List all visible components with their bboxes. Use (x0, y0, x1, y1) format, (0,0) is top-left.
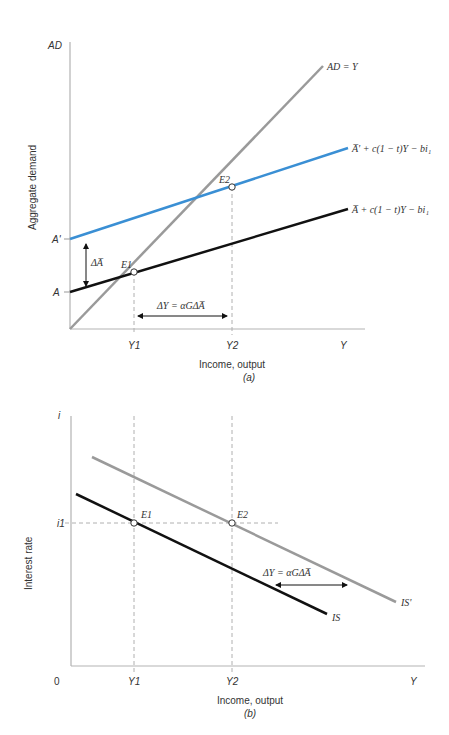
b-e2-label: E2 (236, 509, 248, 520)
a-y-axis-label: Aggregate demand (27, 145, 38, 230)
b-y-symbol: i (58, 410, 61, 421)
a-delta-y-label: ΔY = αGΔA̅ (156, 300, 206, 311)
e2-label: E2 (218, 174, 230, 185)
b-x-axis-label: Income, output (217, 695, 283, 706)
panel-b: i Interest rate IS' IS i1 E1 E2 ΔY = αGΔ… (23, 410, 425, 719)
a-caption: (a) (243, 372, 255, 383)
e1-label: E1 (120, 259, 132, 270)
b-tick-i1: i1 (57, 518, 65, 529)
b-x-symbol: Y (410, 676, 418, 687)
b-tick-y2: Y2 (226, 676, 239, 687)
a-tick-y2: Y2 (226, 340, 239, 351)
ad-eq-y-label: AD = Y (326, 61, 359, 72)
a-tick-y1: Y1 (128, 340, 140, 351)
b-origin: 0 (54, 676, 60, 687)
ad-shifted-label: A̅' + c(1 − t)Y − bi₁ (351, 143, 431, 155)
ad-shifted-line (70, 148, 348, 239)
b-e1-point (131, 520, 137, 526)
b-tick-y1: Y1 (128, 676, 140, 687)
ad-initial-line (70, 209, 348, 292)
delta-a-label: ΔA̅ (90, 257, 104, 268)
b-e2-point (229, 520, 235, 526)
panel-a: AD Aggregate demand AD = Y A̅' + c(1 − t… (27, 40, 431, 383)
b-delta-y-label: ΔY = αGΔA̅ (262, 567, 312, 578)
is-curve (76, 494, 327, 614)
ad-initial-label: A̅ + c(1 − t)Y − bi₁ (351, 204, 429, 216)
a-x-symbol: Y (340, 340, 348, 351)
b-caption: (b) (244, 708, 256, 719)
is-label: IS (331, 612, 340, 623)
a-tick-aprime-label: A' (51, 234, 62, 245)
is-shifted-label: IS' (400, 597, 412, 608)
a-x-axis-label: Income, output (199, 359, 265, 370)
is-shifted-curve (92, 457, 396, 602)
a-y-symbol: AD (47, 40, 62, 51)
b-e1-label: E1 (140, 509, 152, 520)
is-ad-diagram: AD Aggregate demand AD = Y A̅' + c(1 − t… (0, 0, 449, 735)
b-y-axis-label: Interest rate (23, 536, 34, 590)
a-tick-a-label: A (52, 287, 60, 298)
